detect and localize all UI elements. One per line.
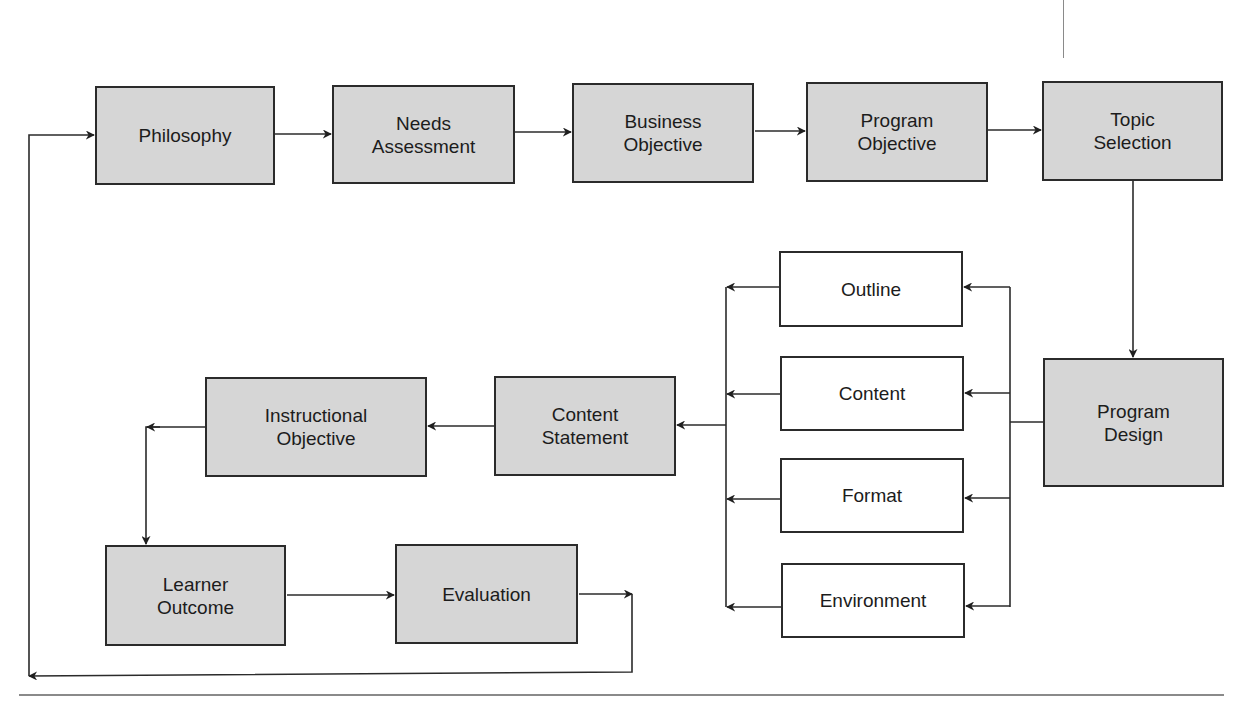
connector-loop-up-to-philosophy — [29, 135, 94, 676]
bottom-page-rule — [19, 694, 1224, 696]
node-label: Philosophy — [139, 124, 232, 147]
node-content-statement: Content Statement — [494, 376, 676, 476]
node-label: Instructional Objective — [265, 404, 367, 450]
node-philosophy: Philosophy — [95, 86, 275, 185]
node-environment: Environment — [781, 563, 965, 638]
node-program-objective: Program Objective — [806, 82, 988, 182]
node-learner-outcome: Learner Outcome — [105, 545, 286, 646]
node-label: Program Design — [1097, 400, 1170, 446]
node-needs-assessment: Needs Assessment — [332, 85, 515, 184]
node-label: Environment — [820, 589, 927, 612]
node-label: Content — [839, 382, 906, 405]
node-label: Topic Selection — [1093, 108, 1171, 154]
node-label: Business Objective — [623, 110, 702, 156]
node-content: Content — [780, 356, 964, 431]
node-label: Format — [842, 484, 902, 507]
training-process-flowchart: PhilosophyNeeds AssessmentBusiness Objec… — [0, 0, 1249, 705]
node-label: Evaluation — [442, 583, 531, 606]
node-business-objective: Business Objective — [572, 83, 754, 183]
node-format: Format — [780, 458, 964, 533]
node-label: Content Statement — [542, 403, 629, 449]
node-label: Needs Assessment — [372, 112, 475, 158]
connector-instructional-to-learner-outcome — [146, 427, 205, 544]
node-instructional-objective: Instructional Objective — [205, 377, 427, 477]
node-label: Outline — [841, 278, 901, 301]
node-evaluation: Evaluation — [395, 544, 578, 644]
top-page-mark — [1063, 0, 1064, 58]
node-outline: Outline — [779, 251, 963, 327]
node-program-design: Program Design — [1043, 358, 1224, 487]
node-label: Program Objective — [857, 109, 936, 155]
node-topic-selection: Topic Selection — [1042, 81, 1223, 181]
node-label: Learner Outcome — [157, 573, 234, 619]
